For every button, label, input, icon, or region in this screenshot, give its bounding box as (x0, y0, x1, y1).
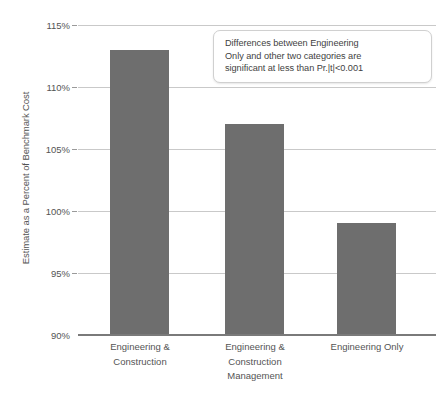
x-tick-label: Engineering Only (307, 340, 427, 355)
gridline-115 (78, 25, 436, 26)
y-tick-label: 105% (24, 144, 70, 155)
y-tick-mark (72, 211, 77, 212)
y-tick-label: 115% (24, 20, 70, 31)
x-tick-label: Engineering & Construction (80, 340, 200, 369)
bar-engineering-construction-management (225, 124, 284, 335)
x-tick-label: Engineering & Construction Management (195, 340, 315, 384)
y-axis-tick-labels: 115% 110% 105% 100% 95% 90% (22, 25, 70, 335)
y-tick-label: 90% (24, 330, 70, 341)
y-tick-label: 95% (24, 268, 70, 279)
bar-engineering-and-construction (110, 50, 169, 335)
x-axis-tick-labels: Engineering & Construction Engineering &… (78, 340, 436, 408)
y-tick-mark (72, 25, 77, 26)
y-tick-mark (72, 87, 77, 88)
y-tick-mark (72, 149, 77, 150)
y-tick-mark (72, 273, 77, 274)
x-axis-line (78, 334, 436, 336)
y-tick-label: 110% (24, 82, 70, 93)
annotation-text: Differences between Engineering Only and… (225, 37, 423, 75)
y-tick-label: 100% (24, 206, 70, 217)
bar-chart: Estimate as a Percent of Benchmark Cost … (0, 0, 446, 412)
bar-engineering-only (337, 223, 396, 335)
annotation-callout: Differences between Engineering Only and… (213, 30, 432, 83)
